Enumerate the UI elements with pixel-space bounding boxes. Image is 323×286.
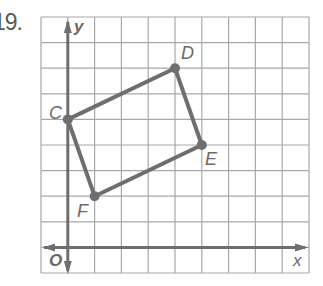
point-label-E: E [205, 149, 218, 169]
point-label-C: C [49, 103, 63, 123]
point-D [170, 63, 180, 73]
point-label-F: F [77, 201, 89, 221]
polygon-outline [68, 68, 202, 196]
coordinate-graph: y x O C D E F [0, 0, 323, 286]
y-axis-arrow-up-icon [64, 20, 72, 33]
y-axis-arrow-down-icon [64, 261, 72, 274]
point-F [90, 191, 100, 201]
point-C [63, 114, 73, 124]
x-axis-label: x [292, 251, 302, 270]
quadrilateral-CDEF [63, 63, 207, 201]
y-axis-label: y [73, 17, 85, 36]
point-label-D: D [181, 43, 194, 63]
grid-lines [41, 17, 309, 273]
origin-label: O [49, 251, 62, 270]
